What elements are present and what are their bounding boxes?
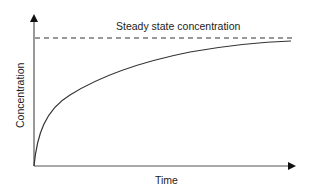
concentration-time-chart: Steady state concentration Time Concentr…: [0, 0, 309, 195]
concentration-curve: [34, 41, 291, 166]
steady-state-label: Steady state concentration: [116, 20, 240, 32]
x-axis-label: Time: [155, 174, 178, 186]
y-axis-label: Concentration: [14, 62, 26, 128]
